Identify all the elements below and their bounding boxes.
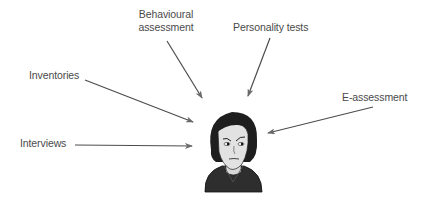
arrow-e-assessment [268, 107, 373, 133]
person-illustration [205, 112, 262, 192]
mouth [229, 159, 239, 160]
arrow-interviews [75, 145, 192, 146]
face-shape [218, 123, 248, 169]
arrow-behavioural [167, 41, 202, 98]
arrows-layer [0, 0, 426, 202]
arrow-personality [248, 38, 270, 96]
arrow-inventories [85, 80, 193, 122]
